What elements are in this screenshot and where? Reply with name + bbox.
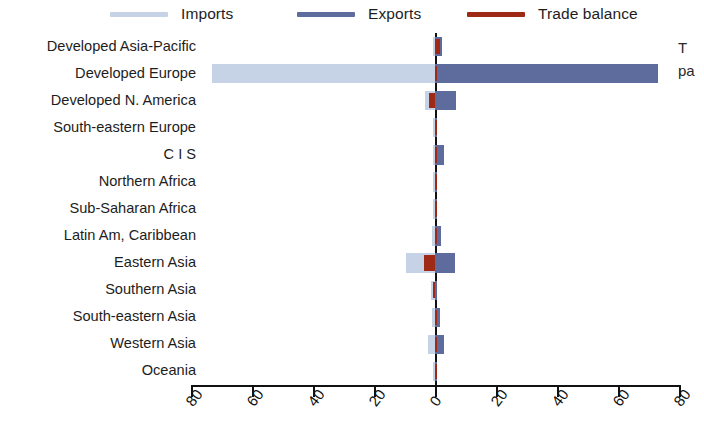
bar-trade-balance	[435, 310, 437, 325]
bar-row	[196, 332, 704, 357]
trade-balance-color-swatch	[467, 12, 525, 17]
bar-trade-balance	[435, 147, 437, 162]
legend-item-trade-balance: Trade balance	[467, 2, 638, 26]
bar-row	[196, 34, 704, 59]
side-note-line1: T	[678, 36, 704, 59]
trade-bar-chart: Imports Exports Trade balance Developed …	[0, 0, 704, 424]
bar-exports	[435, 91, 456, 110]
legend-label-imports: Imports	[181, 5, 233, 23]
bar-row	[196, 359, 704, 384]
bar-row	[196, 61, 704, 86]
side-note-line2: pa	[678, 59, 704, 82]
bar-trade-balance	[433, 282, 435, 297]
bar-trade-balance	[435, 66, 437, 81]
bar-trade-balance	[424, 255, 435, 270]
category-label: Developed Europe	[0, 66, 196, 81]
bars-panel	[196, 33, 704, 385]
category-label: Western Asia	[0, 336, 196, 351]
bar-row	[196, 305, 704, 330]
bar-row	[196, 142, 704, 167]
category-label: South-eastern Asia	[0, 309, 196, 324]
bar-trade-balance	[435, 201, 437, 216]
category-label: Developed N. America	[0, 93, 196, 108]
clipped-side-annotation: T pa	[678, 36, 704, 92]
bar-trade-balance	[435, 337, 437, 352]
bar-trade-balance	[435, 120, 437, 135]
category-label: Developed Asia-Pacific	[0, 39, 196, 54]
axis-tick-label: 40	[304, 386, 328, 410]
chart-legend: Imports Exports Trade balance	[0, 0, 704, 28]
bar-row	[196, 251, 704, 276]
plot-area: Developed Asia-PacificDeveloped EuropeDe…	[0, 33, 704, 385]
bar-trade-balance	[435, 228, 437, 243]
axis-tick-label: 40	[548, 386, 572, 410]
bar-exports	[435, 253, 455, 272]
legend-label-exports: Exports	[368, 5, 421, 23]
category-label: Southern Asia	[0, 282, 196, 297]
axis-tick-label: 60	[609, 386, 633, 410]
axis-tick-label: 80	[670, 386, 694, 410]
axis-tick-label: 80	[182, 386, 206, 410]
bar-imports	[428, 335, 435, 354]
bar-trade-balance	[435, 174, 437, 189]
category-label: Sub-Saharan Africa	[0, 201, 196, 216]
category-label: C I S	[0, 147, 196, 162]
bar-trade-balance	[435, 364, 437, 379]
bar-row	[196, 278, 704, 303]
category-label: South-eastern Europe	[0, 120, 196, 135]
bar-exports	[435, 281, 437, 300]
axis-tick-label: 60	[243, 386, 267, 410]
bar-row	[196, 88, 704, 113]
bar-row	[196, 224, 704, 249]
category-label: Eastern Asia	[0, 255, 196, 270]
category-label: Oceania	[0, 363, 196, 378]
bar-exports	[435, 64, 658, 83]
bar-row	[196, 197, 704, 222]
legend-item-imports: Imports	[110, 2, 233, 26]
bar-row	[196, 169, 704, 194]
imports-color-swatch	[110, 12, 168, 17]
bar-row	[196, 115, 704, 140]
category-label: Latin Am, Caribbean	[0, 228, 196, 243]
axis-tick-label: 20	[365, 386, 389, 410]
bar-trade-balance	[429, 93, 435, 108]
legend-item-exports: Exports	[297, 2, 421, 26]
category-label: Northern Africa	[0, 174, 196, 189]
axis-tick-label: 0	[426, 392, 445, 409]
value-axis: 80604020020406080	[196, 385, 704, 424]
category-axis-labels: Developed Asia-PacificDeveloped EuropeDe…	[0, 33, 196, 385]
bar-imports	[212, 64, 435, 83]
legend-label-trade-balance: Trade balance	[538, 5, 638, 23]
exports-color-swatch	[297, 12, 355, 17]
axis-tick-label: 20	[487, 386, 511, 410]
bar-trade-balance	[435, 39, 440, 54]
